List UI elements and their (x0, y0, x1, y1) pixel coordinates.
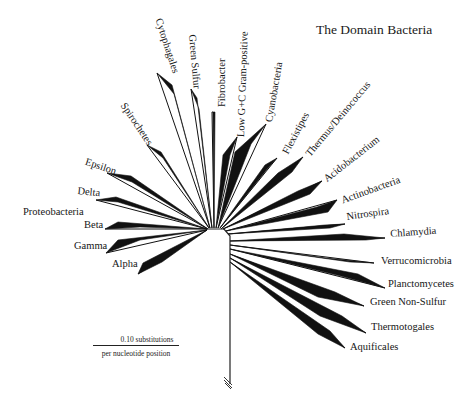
taxon-label-fibrobacter: Fibrobacter (217, 59, 228, 107)
branch-stem-green-sulfur (191, 89, 212, 228)
taxon-label-verrucomicrobia: Verrucomicrobia (381, 256, 452, 267)
taxon-label-green-non-sulfur: Green Non-Sulfur (370, 297, 446, 308)
taxon-label-thermotogales: Thermotogales (371, 322, 434, 333)
taxon-label-delta: Delta (77, 186, 101, 199)
group-label-proteobacteria: Proteobacteria (23, 207, 84, 218)
root-break-marks (224, 377, 232, 389)
scale-bar-line (93, 345, 179, 346)
taxon-label-gamma: Gamma (74, 241, 107, 252)
taxon-label-aquificales: Aquificales (350, 342, 398, 353)
taxon-label-beta: Beta (84, 220, 103, 231)
root-backbone (207, 229, 230, 384)
branch-stem-thermotogales (230, 258, 366, 333)
scale-bar-value: 0.10 substitutions (112, 335, 182, 344)
taxon-label-alpha: Alpha (112, 259, 138, 270)
diagram-title: The Domain Bacteria (316, 22, 432, 38)
scale-bar-unit: per nucleotide position (93, 349, 179, 358)
taxon-label-planctomycetes: Planctomycetes (388, 279, 454, 290)
